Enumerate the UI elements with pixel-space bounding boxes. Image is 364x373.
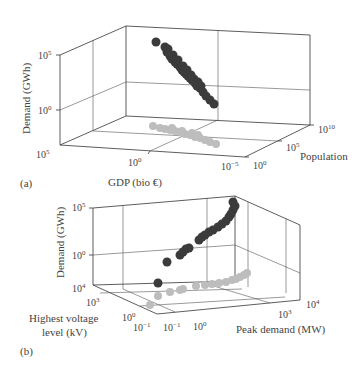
data-point — [149, 122, 157, 130]
data-point — [179, 285, 187, 293]
panel-b: 105 100 104 103 100 10−1 10−1 100 103 10… — [20, 196, 326, 358]
panel-a-x-tick-1e0: 100 — [128, 156, 142, 168]
panel-b-y-label-line2: level (kV) — [42, 326, 87, 339]
panel-b-data-points — [154, 198, 240, 288]
panel-b-y-tick-1e-1: 10−1 — [133, 321, 151, 333]
data-point — [152, 38, 161, 47]
panel-a-y-tick-1e0: 100 — [253, 159, 267, 171]
data-point — [201, 281, 209, 289]
panel-b-y-tick-1e4: 104 — [72, 282, 86, 294]
figure: 105 100 105 100 10−5 100 105 1010 Demand… — [0, 0, 364, 373]
data-point — [212, 140, 220, 148]
panel-b-x-tick-1e3: 103 — [278, 308, 292, 320]
panel-a-label: (a) — [20, 177, 33, 190]
data-point — [194, 131, 202, 139]
panel-b-z-tick-1e5: 105 — [72, 201, 86, 213]
panel-b-label: (b) — [20, 345, 33, 358]
panel-a-z-label: Demand (GWh) — [20, 62, 33, 134]
data-point — [215, 279, 223, 287]
data-point — [178, 127, 186, 135]
panel-a: 105 100 105 100 10−5 100 105 1010 Demand… — [20, 26, 348, 190]
data-point — [166, 288, 174, 296]
data-point — [163, 258, 172, 267]
panel-b-grid — [93, 245, 235, 255]
data-point — [229, 198, 238, 207]
panel-a-z-tick-1e5: 105 — [38, 49, 52, 61]
data-point — [154, 292, 162, 300]
panel-a-y-tick-1e10: 1010 — [318, 123, 336, 135]
panel-a-z-tick-1e0: 100 — [38, 104, 52, 116]
data-point — [185, 244, 194, 253]
data-point — [210, 100, 219, 109]
panel-a-y-tick-1e5: 105 — [286, 141, 300, 153]
panel-b-y-label-line1: Highest voltage — [29, 312, 98, 324]
data-point — [197, 82, 206, 91]
panel-b-x-tick-1e4: 104 — [306, 298, 320, 310]
panel-b-z-tick-1e0: 100 — [72, 249, 86, 261]
panel-a-x-label: GDP (bio €) — [108, 176, 162, 189]
panel-a-x-tick-1e5: 105 — [36, 148, 50, 160]
data-point — [154, 279, 163, 288]
data-point — [146, 301, 154, 309]
data-point — [192, 282, 200, 290]
data-point — [208, 280, 216, 288]
panel-b-y-tick-1e3: 103 — [86, 296, 100, 308]
panel-a-projection-points — [149, 122, 220, 148]
panel-a-y-label: Population — [300, 150, 348, 162]
data-point — [168, 124, 176, 132]
panel-b-grid — [140, 297, 285, 306]
panel-b-x-tick-1e0: 100 — [193, 320, 207, 332]
panel-a-x-tick-1e-5: 10−5 — [221, 160, 239, 172]
panel-b-z-label: Demand (GWh) — [54, 206, 67, 278]
panel-b-x-tick-1e-1: 10−1 — [163, 321, 181, 333]
panel-a-data-points — [152, 38, 219, 109]
panel-b-x-label: Peak demand (MW) — [236, 323, 326, 336]
panel-b-grid — [235, 245, 300, 273]
data-point — [243, 269, 251, 277]
